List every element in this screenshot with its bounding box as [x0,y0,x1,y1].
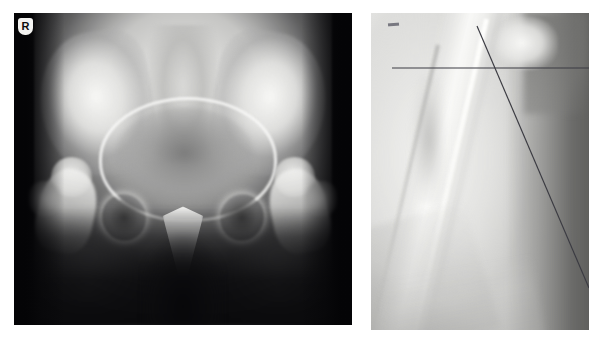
panel-lateral-femur[interactable] [371,13,589,330]
panel-ap-pelvis[interactable]: R [14,13,352,325]
measurement-annotation-layer [371,13,589,330]
femur-image-surface [371,13,589,330]
film-edge-vignette [14,13,352,325]
radiograph-figure: R [0,0,607,341]
side-marker-r: R [18,18,33,35]
femoral-axis-line [477,26,589,288]
pelvis-image-surface: R [14,13,352,325]
